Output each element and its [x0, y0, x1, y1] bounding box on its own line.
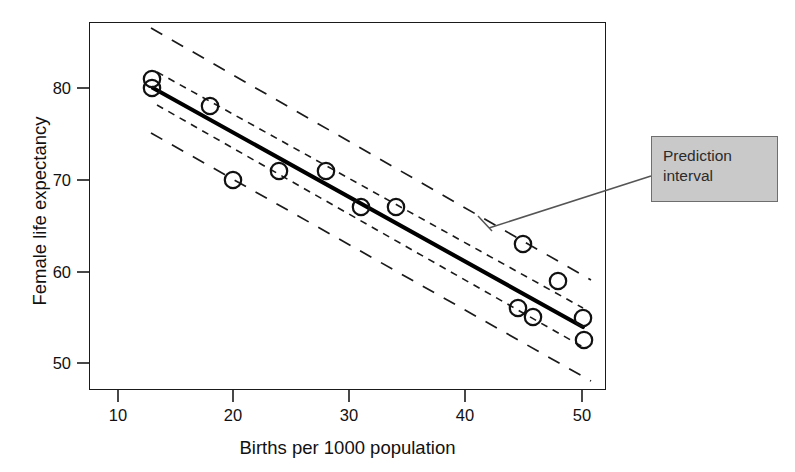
regression-line — [153, 88, 583, 327]
data-point — [318, 163, 334, 179]
x-axis-title: Births per 1000 population — [89, 437, 606, 459]
data-point — [525, 309, 541, 325]
x-axis-ticks — [118, 390, 582, 402]
x-tick-label-40: 40 — [456, 406, 474, 425]
callout-line-2: interval — [663, 166, 777, 186]
prediction-interval-lower — [151, 133, 591, 381]
y-tick-label-50: 50 — [33, 354, 71, 373]
callout-line-1: Prediction — [663, 146, 777, 166]
data-point — [510, 300, 526, 316]
data-point — [575, 310, 591, 326]
data-point — [202, 98, 218, 114]
x-tick-label-10: 10 — [109, 406, 127, 425]
data-point — [225, 172, 241, 188]
x-tick-label-30: 30 — [340, 406, 358, 425]
prediction-interval-band — [151, 28, 591, 381]
x-tick-label-50: 50 — [573, 406, 591, 425]
confidence-interval-lower — [157, 105, 583, 347]
scatter-markers — [144, 71, 592, 348]
y-axis-title: Female life expectancy — [29, 81, 51, 341]
data-point — [576, 332, 592, 348]
annotation-leader-line — [478, 176, 651, 231]
data-point — [550, 273, 566, 289]
prediction-interval-upper — [151, 28, 591, 280]
chart-figure: g — [0, 0, 795, 472]
prediction-interval-callout: Prediction interval — [651, 136, 778, 202]
plot-canvas — [0, 0, 795, 472]
y-axis-ticks — [77, 88, 89, 363]
confidence-interval-upper — [157, 72, 583, 308]
x-tick-label-20: 20 — [224, 406, 242, 425]
